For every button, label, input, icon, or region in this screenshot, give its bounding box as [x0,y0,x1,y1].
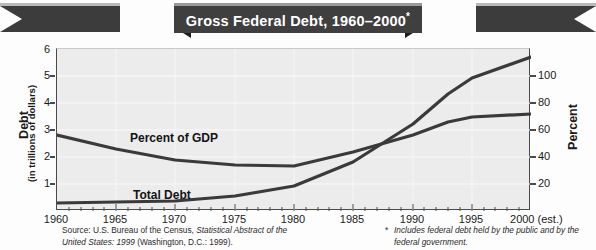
y-tickmark-right-40 [530,156,536,158]
series-label-total-debt: Total Debt [133,188,191,202]
x-tick-2000: 2000 (est.) [510,213,563,225]
y-tickmark-left-3 [50,129,55,131]
x-tick-1975: 1975 [222,213,246,225]
x-tick-1965: 1965 [103,213,127,225]
x-tick-1995: 1995 [459,213,483,225]
y-tick-right-80: 80 [538,97,550,108]
x-tick-1960: 1960 [44,213,68,225]
y-tick-right-100: 100 [538,70,556,81]
footnote-asterisk: * Includes federal debt held by the publ… [385,225,585,249]
footnote-asterisk-marker: * [385,225,388,237]
y-tickmark-left-4 [50,102,55,104]
chart-title: Gross Federal Debt, 1960–2000* [186,11,410,29]
x-axis-tickmarks [69,204,519,211]
y-tick-right-40: 40 [538,151,550,162]
y-tick-left-6: 6 [44,44,50,55]
y-tick-right-60: 60 [538,124,550,135]
source-note-body: U.S. Bureau of the Census, [91,225,197,235]
figure-gross-federal-debt: Gross Federal Debt, 1960–2000* [0,0,596,250]
y-tickmark-left-2 [50,156,55,158]
chart-title-dash: – [365,12,373,28]
y-tickmark-right-80 [530,102,536,104]
title-ribbon: Gross Federal Debt, 1960–2000* [0,0,596,40]
y-tick-right-20: 20 [538,178,550,189]
ribbon-banner: Gross Federal Debt, 1960–2000* [174,3,422,33]
y-tickmark-right-100 [530,75,536,77]
x-tick-1980: 1980 [281,213,305,225]
ribbon-highlight-right [476,3,596,6]
ribbon-tail-right [476,6,596,32]
y-tickmark-right-20 [530,183,536,185]
source-note-prefix: Source: [62,225,91,235]
x-tick-1970: 1970 [162,213,186,225]
x-tick-1990: 1990 [400,213,424,225]
source-note-tail: (Washington, D.C.: 1999). [135,237,233,247]
y-tickmark-right-60 [530,129,536,131]
chart-title-end: 2000 [373,12,406,28]
ribbon-tail-left [0,6,120,32]
source-note: Source: U.S. Bureau of the Census, Stati… [62,225,302,249]
ribbon-highlight-left [0,3,120,6]
footnote-asterisk-text: Includes federal debt held by the public… [385,225,585,249]
y-axis-right-title: Percent [566,87,580,167]
series-label-percent-of-gdp: Percent of GDP [130,131,218,145]
y-tickmark-left-1 [50,183,55,185]
chart-canvas [57,49,531,211]
x-tick-1985: 1985 [340,213,364,225]
chart-title-asterisk: * [406,11,410,22]
plot-area [56,48,530,210]
chart-title-text: Gross Federal Debt, 1960 [186,12,365,28]
y-axis-left-subtitle: (in trillions of dollars) [26,79,37,189]
y-tickmark-left-5 [50,75,55,77]
